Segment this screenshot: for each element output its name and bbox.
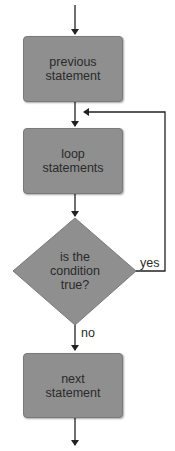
previous-statement-node: previous statement xyxy=(23,36,123,102)
condition-label: is the condition true? xyxy=(35,250,115,292)
yes-label: yes xyxy=(140,256,159,270)
loop-statements-node: loop statements xyxy=(23,128,123,194)
no-label: no xyxy=(81,326,95,340)
next-statement-node: next statement xyxy=(23,353,123,418)
